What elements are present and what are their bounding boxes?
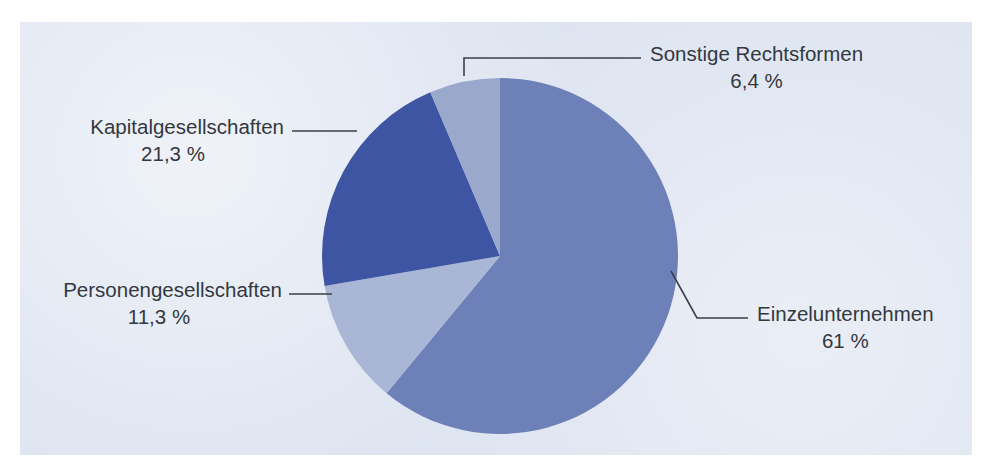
callout-label-sonstige-rechtsformen: Sonstige Rechtsformen 6,4 % <box>650 40 863 94</box>
callout-label-sonstige-rechtsformen-value: 6,4 % <box>650 67 863 94</box>
pie-slices <box>322 78 678 434</box>
leader-line-einzelunternehmen <box>671 271 748 318</box>
callout-label-personengesellschaften-name: Personengesellschaften <box>36 276 282 303</box>
callout-label-einzelunternehmen-value: 61 % <box>757 327 934 354</box>
callout-label-einzelunternehmen-name: Einzelunternehmen <box>757 300 934 327</box>
callout-label-personengesellschaften-value: 11,3 % <box>36 303 282 330</box>
callout-label-kapitalgesellschaften-value: 21,3 % <box>62 140 284 167</box>
chart-page: Sonstige Rechtsformen 6,4 % Kapitalgesel… <box>0 0 989 473</box>
callout-label-personengesellschaften: Personengesellschaften 11,3 % <box>36 276 282 330</box>
leader-line-sonstige <box>464 58 641 76</box>
callout-label-kapitalgesellschaften-name: Kapitalgesellschaften <box>62 113 284 140</box>
callout-label-kapitalgesellschaften: Kapitalgesellschaften 21,3 % <box>62 113 284 167</box>
callout-label-einzelunternehmen: Einzelunternehmen 61 % <box>757 300 934 354</box>
callout-label-sonstige-rechtsformen-name: Sonstige Rechtsformen <box>650 40 863 67</box>
